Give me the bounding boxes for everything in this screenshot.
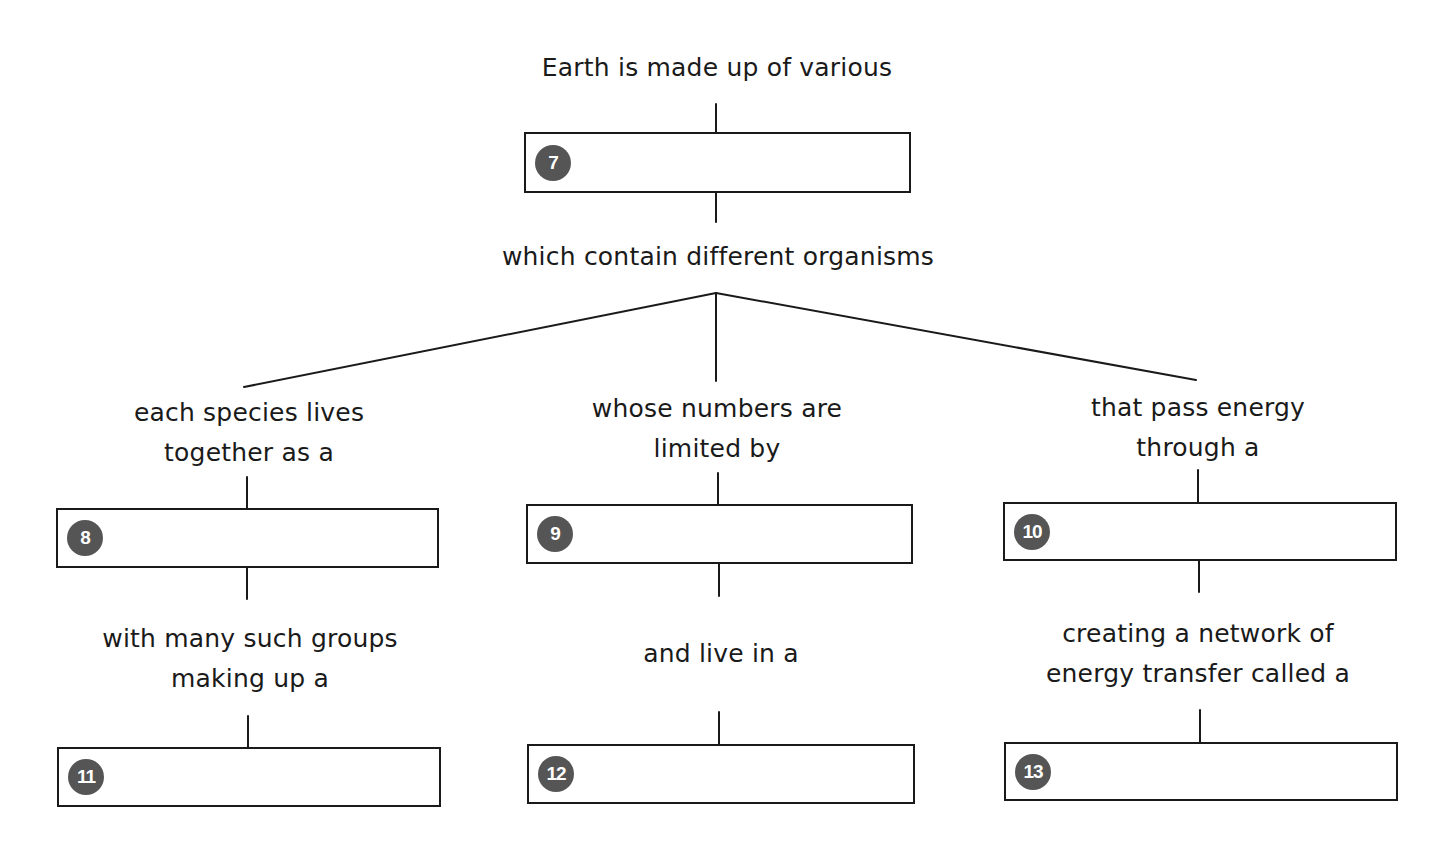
number-badge-7: 7: [535, 145, 571, 181]
answer-input-9[interactable]: [580, 510, 903, 558]
root-intro-text: Earth is made up of various: [542, 48, 892, 88]
answer-box-12[interactable]: 12: [527, 744, 915, 804]
number-badge-11: 11: [68, 759, 104, 795]
number-badge-12: 12: [538, 756, 574, 792]
connector-branch-right: [716, 293, 1196, 380]
answer-box-13[interactable]: 13: [1004, 742, 1398, 801]
answer-input-7[interactable]: [578, 138, 901, 187]
answer-input-10[interactable]: [1057, 508, 1387, 555]
root-after-text: which contain different organisms: [502, 237, 934, 277]
answer-input-12[interactable]: [581, 750, 905, 798]
right-top-text: that pass energy through a: [1091, 388, 1305, 468]
number-badge-9: 9: [537, 516, 573, 552]
answer-box-8[interactable]: 8: [56, 508, 439, 568]
right-middle-text: creating a network of energy transfer ca…: [1046, 614, 1350, 694]
center-middle-text: and live in a: [643, 634, 799, 674]
answer-input-13[interactable]: [1058, 748, 1388, 795]
left-top-text: each species lives together as a: [134, 393, 364, 473]
left-middle-text: with many such groups making up a: [102, 619, 397, 699]
center-top-text: whose numbers are limited by: [592, 389, 842, 469]
connector-branch-left: [244, 293, 716, 387]
answer-input-11[interactable]: [111, 753, 431, 801]
answer-box-10[interactable]: 10: [1003, 502, 1397, 561]
answer-box-9[interactable]: 9: [526, 504, 913, 564]
number-badge-13: 13: [1015, 754, 1051, 790]
answer-box-11[interactable]: 11: [57, 747, 441, 807]
number-badge-8: 8: [67, 520, 103, 556]
answer-input-8[interactable]: [110, 514, 429, 562]
number-badge-10: 10: [1014, 514, 1050, 550]
answer-box-7[interactable]: 7: [524, 132, 911, 193]
